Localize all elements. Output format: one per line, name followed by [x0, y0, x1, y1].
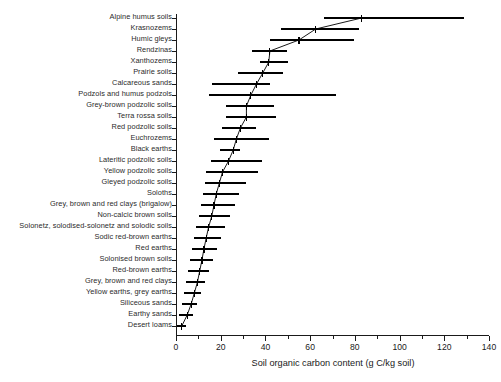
mean-marker — [268, 59, 269, 66]
range-bar — [212, 83, 269, 86]
y-axis-tick — [172, 62, 176, 63]
y-axis-tick — [172, 183, 176, 184]
category-label: Red podzolic soils — [112, 123, 172, 131]
y-axis-tick — [172, 40, 176, 41]
category-label: Solonetz, solodised-solonetz and solodic… — [19, 222, 172, 230]
y-axis-tick — [172, 172, 176, 173]
x-axis-tick — [221, 336, 222, 341]
y-axis-tick — [172, 238, 176, 239]
mean-marker — [201, 257, 202, 264]
category-label: Euchrozems — [130, 134, 172, 142]
range-bar — [184, 292, 201, 295]
range-bar — [238, 72, 282, 75]
y-axis-tick — [172, 18, 176, 19]
category-label: Alpine humus soils — [109, 13, 172, 21]
category-label: Humic gleys — [131, 35, 172, 43]
x-axis-minor-tick — [377, 336, 378, 339]
range-bar — [209, 94, 336, 97]
category-label: Red earths — [135, 244, 172, 252]
x-axis-minor-tick — [288, 336, 289, 339]
category-label: Terra rossa soils — [117, 112, 172, 120]
category-axis-labels: Alpine humus soilsKrasnozemsHumic gleysR… — [0, 0, 176, 340]
category-label: Rendzinas — [137, 46, 172, 54]
x-axis-tick-label: 60 — [305, 342, 315, 352]
range-bar — [260, 61, 288, 64]
mean-marker — [219, 180, 220, 187]
y-axis-tick — [172, 161, 176, 162]
y-axis-tick — [172, 205, 176, 206]
y-axis-tick — [172, 304, 176, 305]
mean-marker — [181, 323, 182, 330]
y-axis-tick — [172, 249, 176, 250]
category-label: Earthy sands — [128, 310, 172, 318]
mean-marker — [246, 114, 247, 121]
y-axis-tick — [172, 260, 176, 261]
range-bar — [192, 248, 217, 251]
mean-marker — [236, 136, 237, 143]
x-axis-title: Soil organic carbon content (g C/kg soil… — [176, 358, 490, 368]
x-axis-tick-label: 140 — [482, 342, 496, 352]
mean-marker — [250, 92, 251, 99]
category-label: Yellow podzolic soils — [104, 167, 172, 175]
category-label: Grey, brown and red clays — [85, 277, 172, 285]
y-axis-tick — [172, 194, 176, 195]
range-bar — [226, 105, 273, 108]
x-axis-tick — [444, 336, 445, 341]
mean-marker — [246, 103, 247, 110]
category-label: Grey-brown podzolic soils — [86, 101, 172, 109]
y-axis-tick — [172, 293, 176, 294]
mean-marker — [222, 169, 223, 176]
x-axis-tick — [176, 336, 177, 341]
mean-marker — [240, 125, 241, 132]
y-axis-tick — [172, 139, 176, 140]
range-bar — [226, 116, 275, 119]
category-label: Xanthozems — [130, 57, 172, 65]
range-bar — [324, 17, 465, 20]
category-label: Lateritic podzolic soils — [99, 156, 172, 164]
y-axis-tick — [172, 51, 176, 52]
x-axis-tick-label: 100 — [392, 342, 406, 352]
x-axis-tick-label: 80 — [350, 342, 360, 352]
y-axis-tick — [172, 271, 176, 272]
category-label: Sodic red-brown earths — [94, 233, 172, 241]
range-bar — [203, 193, 239, 196]
y-axis-tick — [172, 216, 176, 217]
mean-marker — [361, 15, 362, 22]
y-axis-tick — [172, 73, 176, 74]
category-label: Siliceous sands — [120, 299, 172, 307]
category-label: Krasnozems — [130, 24, 172, 32]
category-label: Prairie soils — [133, 68, 172, 76]
mean-marker — [206, 235, 207, 242]
x-axis-tick — [310, 336, 311, 341]
range-bar — [201, 204, 236, 207]
y-axis-tick — [172, 106, 176, 107]
range-bar — [196, 226, 225, 229]
mean-marker — [233, 147, 234, 154]
mean-marker — [256, 81, 257, 88]
mean-marker — [298, 37, 299, 44]
category-label: Soloths — [147, 189, 172, 197]
y-axis-line — [176, 14, 177, 336]
category-label: Non-calcic brown soils — [97, 211, 172, 219]
x-axis-minor-tick — [243, 336, 244, 339]
mean-marker — [187, 312, 188, 319]
y-axis-tick — [172, 128, 176, 129]
category-label: Desert loams — [128, 321, 172, 329]
x-axis-minor-tick — [198, 336, 199, 339]
x-axis-tick — [400, 336, 401, 341]
mean-marker — [213, 202, 214, 209]
mean-marker — [208, 224, 209, 231]
x-axis-tick-label: 0 — [174, 342, 179, 352]
category-label: Podzols and humus podzols — [78, 90, 172, 98]
range-bar — [281, 28, 359, 31]
range-bar — [211, 160, 261, 163]
x-axis-tick — [355, 336, 356, 341]
x-axis-minor-tick — [333, 336, 334, 339]
mean-marker — [191, 301, 192, 308]
x-axis-minor-tick — [467, 336, 468, 339]
range-bar — [205, 182, 246, 185]
y-axis-tick — [172, 84, 176, 85]
x-axis-tick-label: 120 — [437, 342, 451, 352]
mean-marker — [262, 70, 263, 77]
mean-marker — [197, 279, 198, 286]
